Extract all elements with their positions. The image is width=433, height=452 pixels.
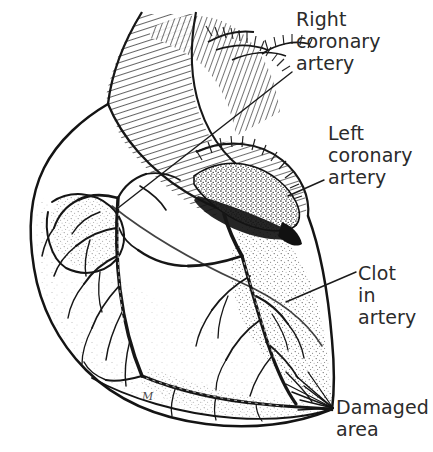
artist-monogram: M [141,390,154,403]
label-clot-in-artery: Clot in artery [358,262,416,329]
label-left-coronary-artery: Left coronary artery [328,122,413,189]
label-right-coronary-artery: Right coronary artery [296,8,381,75]
label-damaged-area: Damaged area [336,396,429,440]
heart-diagram-figure: M Right coronary artery Left coronary ar… [0,0,433,452]
